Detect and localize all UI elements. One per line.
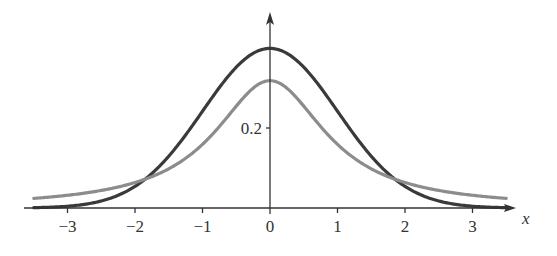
x-tick-label: −3 [58, 217, 76, 236]
x-axis: −3−2−10123 x [24, 204, 530, 236]
x-tick-label: 0 [266, 217, 275, 236]
x-tick-label: 3 [468, 217, 477, 236]
y-axis: 0.2 [241, 12, 274, 214]
x-tick-label: 1 [333, 217, 342, 236]
x-axis-label: x [521, 209, 530, 228]
y-tick-label-0-2: 0.2 [241, 119, 262, 138]
x-tick-label: −1 [193, 217, 211, 236]
chart: −3−2−10123 x 0.2 [0, 0, 557, 256]
plot-area: −3−2−10123 x 0.2 [0, 0, 557, 256]
x-tick-label: −2 [126, 217, 144, 236]
x-tick-label: 2 [401, 217, 410, 236]
